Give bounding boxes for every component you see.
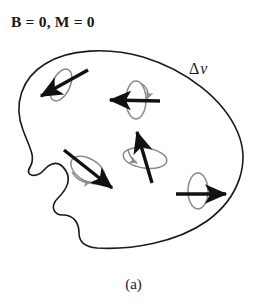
field-condition-label: B = 0, M = 0 <box>11 13 95 31</box>
delta-symbol: Δ <box>189 60 199 77</box>
figure-container: B = 0, M = 0 Δv (a) <box>0 0 267 302</box>
volume-element-label: Δv <box>189 60 207 78</box>
dipole-diagram-canvas <box>0 0 267 302</box>
magnetic-moment-arrow <box>110 100 160 101</box>
volume-symbol: v <box>199 60 207 77</box>
part-caption: (a) <box>0 276 267 293</box>
